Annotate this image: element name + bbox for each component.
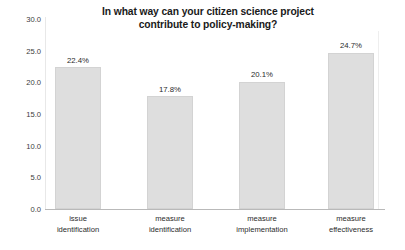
- bar-measure-identification: [147, 96, 193, 209]
- y-tick-label-6: 30.0: [7, 15, 41, 24]
- bar-value-label-1: 17.8%: [159, 85, 181, 94]
- bar-measure-effectiveness: [328, 53, 374, 209]
- plot-area: [45, 19, 378, 209]
- y-tick-label-1: 5.0: [7, 173, 41, 182]
- y-tick-label-0: 0.0: [7, 205, 41, 214]
- chart-title-line-1: In what way can your citizen science pro…: [58, 6, 358, 19]
- x-axis-label-0-line-1: issue: [57, 214, 99, 225]
- bar-value-label-0: 22.4%: [67, 56, 89, 65]
- x-axis-label-measure-effectiveness: measure effectiveness: [329, 214, 373, 235]
- x-axis-label-0-line-2: identification: [57, 225, 99, 236]
- x-axis-label-issue-identification: issue identification: [57, 214, 99, 235]
- x-axis-label-2-line-2: implementation: [236, 225, 288, 236]
- bar-chart: In what way can your citizen science pro…: [0, 0, 405, 250]
- x-axis-label-1-line-2: identification: [149, 225, 191, 236]
- y-axis-tick-labels: 0.0 5.0 10.0 15.0 20.0 25.0 30.0: [0, 0, 41, 250]
- y-tick-label-2: 10.0: [7, 141, 41, 150]
- bar-issue-identification: [55, 67, 101, 209]
- x-axis-label-3-line-1: measure: [329, 214, 373, 225]
- x-axis-label-2-line-1: measure: [236, 214, 288, 225]
- x-axis-label-measure-identification: measure identification: [149, 214, 191, 235]
- y-tick-label-5: 25.0: [7, 46, 41, 55]
- x-axis-label-1-line-1: measure: [149, 214, 191, 225]
- x-axis-label-measure-implementation: measure implementation: [236, 214, 288, 235]
- bar-value-label-3: 24.7%: [340, 41, 362, 50]
- y-tick-label-3: 15.0: [7, 110, 41, 119]
- plot-right-border: [378, 31, 379, 209]
- bar-measure-implementation: [239, 82, 285, 209]
- bar-value-label-2: 20.1%: [251, 70, 273, 79]
- x-axis-label-3-line-2: effectiveness: [329, 225, 373, 236]
- x-axis-line: [45, 209, 385, 210]
- y-tick-label-4: 20.0: [7, 78, 41, 87]
